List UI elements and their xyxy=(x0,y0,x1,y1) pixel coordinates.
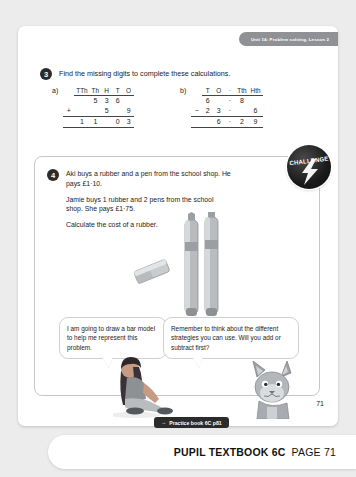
digit-cell: 2 xyxy=(202,106,213,116)
speech-bubble-girl-text: I am going to draw a bar model to help m… xyxy=(67,325,155,351)
digit-cell: 9 xyxy=(249,117,263,128)
digit-cell xyxy=(235,106,248,116)
digit-cell: 1 xyxy=(90,117,101,128)
column-header: T xyxy=(202,86,213,96)
speech-bubble-tail xyxy=(102,357,113,368)
part-a-table: TTh Th H T O 5 3 6 + xyxy=(63,86,134,128)
digit-cell xyxy=(90,106,101,116)
digit-cell: 1 xyxy=(74,117,89,128)
column-header: T xyxy=(112,86,123,96)
speech-bubble-cat: Remember to think about the different st… xyxy=(163,317,299,359)
part-a-label: a) xyxy=(52,87,58,94)
column-header: Hth xyxy=(249,86,263,96)
rubber-eraser-illustration xyxy=(131,257,173,287)
digit-cell: 2 xyxy=(235,117,248,128)
row-operator xyxy=(191,117,202,128)
part-b-label: b) xyxy=(180,87,186,94)
question-3-prompt: Find the missing digits to complete thes… xyxy=(59,68,230,79)
digit-cell xyxy=(202,117,213,128)
table-row: 1 1 0 3 xyxy=(63,117,134,128)
practice-book-reference[interactable]: → Practice book 6C p81 xyxy=(154,417,229,428)
calculations-row: a) TTh Th H T O 5 3 6 xyxy=(40,86,324,128)
table-row: 6 · 2 9 xyxy=(191,117,262,128)
digit-cell: 0 xyxy=(112,117,123,128)
digit-cell: 3 xyxy=(123,117,134,128)
column-header: H xyxy=(101,86,112,96)
table-row: − 2 3 · 6 xyxy=(191,106,262,116)
row-operator xyxy=(63,117,74,128)
table-row: TTh Th H T O xyxy=(63,86,134,96)
digit-cell xyxy=(213,96,224,106)
textbook-page: Unit 14: Problem solving, Lesson 2 3 Fin… xyxy=(18,26,338,426)
footer-bar: PUPIL TEXTBOOK 6C PAGE 71 xyxy=(48,435,356,469)
part-b-table: T O · Tth Hth 6 · 8 − 2 3 xyxy=(191,86,262,128)
column-header: O xyxy=(123,86,134,96)
question-4-panel: 4 Aki buys a rubber and a pen from the s… xyxy=(34,156,320,396)
calculation-part-b: b) T O · Tth Hth 6 · 8 xyxy=(180,86,262,128)
column-header: Th xyxy=(90,86,101,96)
question-4-number: 4 xyxy=(47,169,59,181)
unit-lesson-label: Unit 14: Problem solving, Lesson 2 xyxy=(251,37,329,42)
digit-cell xyxy=(74,106,89,116)
decimal-point: · xyxy=(224,117,235,128)
part-b-op-header xyxy=(191,86,202,96)
speech-bubble-tail xyxy=(192,357,203,368)
digit-cell: 6 xyxy=(213,117,224,128)
table-row: T O · Tth Hth xyxy=(191,86,262,96)
challenge-badge: CHALLENGE xyxy=(287,145,331,189)
cat-character xyxy=(247,357,299,419)
girl-character xyxy=(113,353,175,419)
column-header: TTh xyxy=(74,86,89,96)
book-title: PUPIL TEXTBOOK 6C xyxy=(174,446,286,458)
decimal-point: · xyxy=(224,106,235,116)
digit-cell xyxy=(74,96,89,106)
column-header: O xyxy=(213,86,224,96)
digit-cell: 5 xyxy=(101,106,112,116)
arrow-right-icon: → xyxy=(161,420,166,425)
digit-cell: 3 xyxy=(101,96,112,106)
footer-page-label: PAGE 71 xyxy=(292,446,336,458)
digit-cell xyxy=(101,117,112,128)
practice-book-label: Practice book 6C p81 xyxy=(169,420,221,426)
digit-cell: 6 xyxy=(249,106,263,116)
part-a-op-header xyxy=(63,86,74,96)
table-row: 5 3 6 xyxy=(63,96,134,106)
digit-cell xyxy=(123,96,134,106)
row-operator xyxy=(63,96,74,106)
question-3: 3 Find the missing digits to complete th… xyxy=(40,68,324,80)
digit-cell: 8 xyxy=(235,96,248,106)
digit-cell xyxy=(112,106,123,116)
digit-cell: 6 xyxy=(202,96,213,106)
decimal-point-header: · xyxy=(224,86,235,96)
page-number: 71 xyxy=(316,400,324,407)
row-operator: + xyxy=(63,106,74,116)
pens-illustration xyxy=(175,212,235,322)
row-operator xyxy=(191,96,202,106)
calculation-part-a: a) TTh Th H T O 5 3 6 xyxy=(52,86,134,128)
column-header: Tth xyxy=(235,86,248,96)
table-row: 6 · 8 xyxy=(191,96,262,106)
decimal-point: · xyxy=(224,96,235,106)
question-4-paragraph: Aki buys a rubber and a pen from the sch… xyxy=(66,169,232,189)
table-row: + 5 9 xyxy=(63,106,134,116)
digit-cell: 6 xyxy=(112,96,123,106)
unit-lesson-tab: Unit 14: Problem solving, Lesson 2 xyxy=(239,32,338,46)
digit-cell: 9 xyxy=(123,106,134,116)
speech-bubble-cat-text: Remember to think about the different st… xyxy=(171,325,281,351)
question-3-header: 3 Find the missing digits to complete th… xyxy=(40,68,324,80)
digit-cell: 5 xyxy=(90,96,101,106)
row-operator: − xyxy=(191,106,202,116)
question-3-number: 3 xyxy=(40,68,52,80)
digit-cell xyxy=(249,96,263,106)
digit-cell: 3 xyxy=(213,106,224,116)
